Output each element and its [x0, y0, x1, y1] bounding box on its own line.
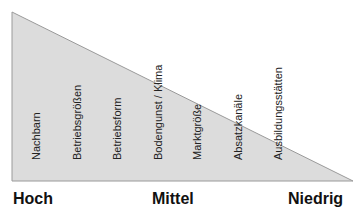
scale-low-label: Niedrig: [288, 190, 343, 208]
influence-triangle: [0, 0, 363, 214]
factor-label-absatzkanaele: Absatzkanäle: [232, 94, 245, 160]
factor-label-betriebsform: Betriebsform: [111, 98, 124, 160]
factor-label-marktgroesse: Marktgröße: [191, 104, 204, 160]
factor-label-nachbarn: Nachbarn: [30, 112, 43, 160]
factor-label-bodengunst-klima: Bodengunst / Klima: [152, 65, 165, 160]
factor-label-ausbildungsstaetten: Ausbildungsstätten: [272, 67, 285, 160]
scale-mid-label: Mittel: [152, 190, 194, 208]
scale-high-label: Hoch: [13, 190, 53, 208]
factor-label-betriebsgroessen: Betriebsgrößen: [71, 85, 84, 160]
